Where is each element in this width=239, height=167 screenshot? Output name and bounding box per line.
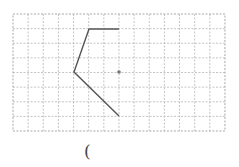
symmetry-center-dot — [117, 70, 121, 74]
answer-bracket: ( — [84, 143, 91, 160]
grid-diagram — [0, 0, 239, 167]
